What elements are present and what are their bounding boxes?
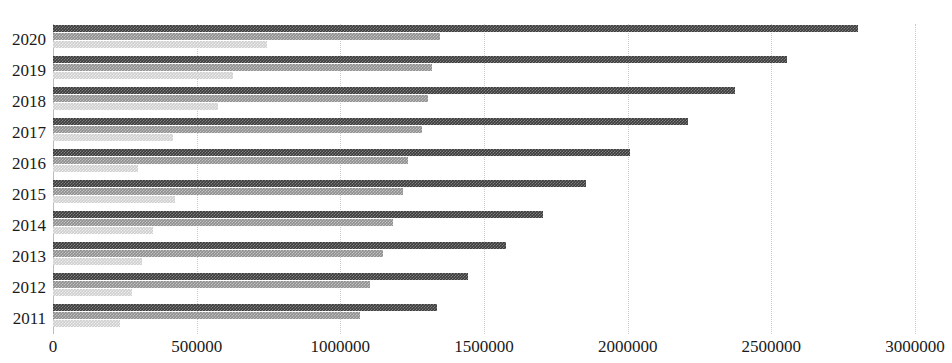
x-tick-label-0: 0: [49, 337, 58, 356]
gridline-3000000: [915, 24, 916, 334]
bar-2015-series-3[interactable]: [53, 196, 175, 203]
x-tick-label-2000000: 2000000: [598, 337, 658, 356]
x-tick-label-1500000: 1500000: [454, 337, 514, 356]
bar-2019-series-1[interactable]: [53, 56, 787, 63]
bar-chart: 2020201920182017201620152014201320122011…: [0, 0, 952, 363]
y-tick-label-2019: 2019: [0, 62, 46, 79]
y-tick-label-2011: 2011: [0, 310, 46, 327]
bar-group-2017: [53, 117, 915, 148]
bar-group-2020: [53, 24, 915, 55]
x-tick-label-500000: 500000: [171, 337, 222, 356]
bar-group-2011: [53, 303, 915, 334]
bar-2020-series-3[interactable]: [53, 41, 267, 48]
bar-2018-series-1[interactable]: [53, 87, 735, 94]
x-tick-label-3000000: 3000000: [885, 337, 945, 356]
bar-2013-series-3[interactable]: [53, 258, 142, 265]
y-tick-label-2018: 2018: [0, 93, 46, 110]
bar-group-2014: [53, 210, 915, 241]
plot-area: [53, 24, 915, 334]
bar-2016-series-3[interactable]: [53, 165, 138, 172]
bar-2017-series-3[interactable]: [53, 134, 173, 141]
bar-2012-series-2[interactable]: [53, 281, 370, 288]
bar-2017-series-1[interactable]: [53, 118, 688, 125]
bar-2012-series-1[interactable]: [53, 273, 468, 280]
bar-2017-series-2[interactable]: [53, 126, 422, 133]
bar-group-2016: [53, 148, 915, 179]
chart-title: [0, 0, 952, 4]
bar-group-2019: [53, 55, 915, 86]
bar-2012-series-3[interactable]: [53, 289, 132, 296]
bar-group-2015: [53, 179, 915, 210]
bar-2018-series-3[interactable]: [53, 103, 218, 110]
bar-2014-series-2[interactable]: [53, 219, 393, 226]
y-tick-label-2013: 2013: [0, 248, 46, 265]
y-tick-label-2017: 2017: [0, 124, 46, 141]
x-tick-label-2500000: 2500000: [742, 337, 802, 356]
bar-group-2012: [53, 272, 915, 303]
bar-2015-series-2[interactable]: [53, 188, 403, 195]
bar-2015-series-1[interactable]: [53, 180, 586, 187]
bar-2016-series-2[interactable]: [53, 157, 408, 164]
x-tick-label-1000000: 1000000: [311, 337, 371, 356]
y-tick-label-2015: 2015: [0, 186, 46, 203]
bar-2013-series-1[interactable]: [53, 242, 506, 249]
bar-2013-series-2[interactable]: [53, 250, 383, 257]
bar-2014-series-3[interactable]: [53, 227, 153, 234]
bar-2018-series-2[interactable]: [53, 95, 428, 102]
y-tick-label-2016: 2016: [0, 155, 46, 172]
bar-2011-series-1[interactable]: [53, 304, 437, 311]
bar-2019-series-2[interactable]: [53, 64, 432, 71]
bar-2020-series-2[interactable]: [53, 33, 440, 40]
bar-2020-series-1[interactable]: [53, 25, 858, 32]
bar-2011-series-3[interactable]: [53, 320, 120, 327]
bar-group-2013: [53, 241, 915, 272]
bar-group-2018: [53, 86, 915, 117]
bar-2016-series-1[interactable]: [53, 149, 630, 156]
y-tick-label-2020: 2020: [0, 31, 46, 48]
bar-2011-series-2[interactable]: [53, 312, 360, 319]
y-tick-label-2014: 2014: [0, 217, 46, 234]
y-tick-label-2012: 2012: [0, 279, 46, 296]
bar-2019-series-3[interactable]: [53, 72, 233, 79]
bar-2014-series-1[interactable]: [53, 211, 543, 218]
